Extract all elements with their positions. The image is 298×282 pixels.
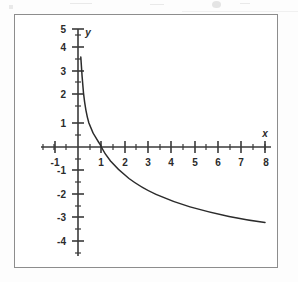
data-curve [81,57,265,223]
x-tick-label: 4 [168,157,174,168]
x-tick-label: 2 [122,157,128,168]
scan-noise-streak [150,4,164,5]
scan-noise-blob [212,1,221,8]
y-tick-label: -4 [57,236,66,247]
scan-noise-speck [9,5,13,9]
scan-noise-streak [182,11,298,12]
y-tick-label: 4 [60,42,66,53]
x-tick-label: 6 [215,157,221,168]
x-tick-label: 1 [98,157,104,168]
x-axis-label: x [261,128,268,139]
y-tick-label: 3 [60,66,66,77]
y-tick-label: 2 [60,89,66,100]
y-tick-label: -3 [57,212,66,223]
logarithmic-curve-plot: -1 1 2 3 4 5 6 7 8 [15,15,276,266]
x-tick-label: 7 [238,157,244,168]
x-tick-label: 8 [263,157,269,168]
y-tick-label: 1 [60,118,66,129]
scan-noise-streak [240,3,250,4]
chart-figure-frame: -1 1 2 3 4 5 6 7 8 [14,14,278,268]
scan-noise-streak [70,3,92,4]
y-axis-label: y [84,27,91,38]
y-tick-label: 5 [60,24,66,35]
x-axis-tick-labels: -1 1 2 3 4 5 6 7 8 [51,157,270,168]
scanned-page: -1 1 2 3 4 5 6 7 8 [0,0,298,282]
y-tick-label: -2 [57,189,66,200]
x-tick-label: 3 [145,157,151,168]
y-axis-tick-labels: 5 4 3 2 1 -1 -2 -3 -4 [57,24,66,247]
y-tick-label: -1 [57,165,66,176]
x-tick-label: 5 [192,157,198,168]
